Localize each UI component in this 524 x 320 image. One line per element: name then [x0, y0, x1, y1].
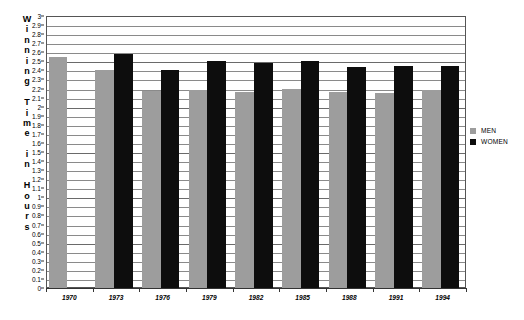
y-axis-tick-label: 2.1: [32, 94, 41, 101]
y-axis-tick-label: 2.9: [32, 22, 41, 29]
y-axis-tick-mark: [41, 106, 44, 107]
x-axis-tick-label-1973: 1973: [109, 294, 124, 301]
x-axis-tick-label-1991: 1991: [389, 294, 404, 301]
y-axis-tick-mark: [41, 260, 44, 261]
x-axis-tick-mark: [326, 288, 327, 292]
y-axis-tick-label: 0.8: [32, 212, 41, 219]
y-axis-tick-mark: [41, 79, 44, 80]
bar-men-1982: [235, 92, 254, 288]
y-axis-tick-mark: [41, 233, 44, 234]
y-axis-tick-mark: [41, 34, 44, 35]
y-axis-tick-mark: [41, 206, 44, 207]
y-axis-tick-mark: [41, 115, 44, 116]
y-axis-tick-mark: [41, 25, 44, 26]
y-axis-tick-label: 2.2: [32, 85, 41, 92]
y-axis-tick-label: 2.3: [32, 76, 41, 83]
x-axis-tick-mark: [139, 288, 140, 292]
bar-women-1976: [161, 70, 180, 288]
y-axis-tick-label: 1.3: [32, 167, 41, 174]
bar-women-1973: [114, 54, 133, 288]
y-axis-tick-label: 1.7: [32, 130, 41, 137]
y-axis-tick-label: 1.1: [32, 185, 41, 192]
y-axis-tick-labels: 32.92.82.72.62.52.42.32.22.121.91.81.71.…: [22, 16, 44, 288]
y-axis-tick-mark: [41, 43, 44, 44]
y-axis-tick-label: 1.9: [32, 112, 41, 119]
legend-swatch-men-icon: [470, 128, 476, 134]
x-axis-tick-label-1988: 1988: [342, 294, 357, 301]
y-axis-tick-label: 2.5: [32, 58, 41, 65]
bar-men-1979: [189, 90, 208, 288]
y-axis-tick-mark: [41, 215, 44, 216]
bar-men-1976: [142, 91, 161, 288]
y-axis-tick-label: 2.6: [32, 49, 41, 56]
y-axis-tick-mark: [41, 179, 44, 180]
y-axis-tick-mark: [41, 97, 44, 98]
bar-women-1988: [347, 67, 366, 288]
y-axis-tick-label: 1.2: [32, 176, 41, 183]
y-axis-tick-mark: [41, 152, 44, 153]
y-axis-tick-mark: [41, 88, 44, 89]
y-axis-tick-label: 2.8: [32, 31, 41, 38]
bar-men-1970: [49, 57, 68, 288]
x-axis-tick-label-1970: 1970: [62, 294, 77, 301]
x-axis-tick-label-1979: 1979: [202, 294, 217, 301]
bar-series-container: [46, 16, 466, 288]
bar-women-1994: [441, 66, 460, 288]
x-axis-tick-mark: [233, 288, 234, 292]
x-axis-tick-mark: [466, 288, 467, 292]
y-axis-tick-label: 0.1: [32, 275, 41, 282]
y-axis-tick-label: 1.5: [32, 149, 41, 156]
y-axis-tick-mark: [41, 288, 44, 289]
y-axis-tick-label: 0.9: [32, 203, 41, 210]
bar-women-1991: [394, 66, 413, 288]
legend-swatch-women-icon: [470, 139, 476, 145]
y-axis-tick-label: 0.4: [32, 248, 41, 255]
y-axis-tick-mark: [41, 133, 44, 134]
legend-label: MEN: [481, 127, 496, 134]
bar-men-1985: [282, 89, 301, 288]
bar-men-1991: [375, 93, 394, 288]
x-axis-tick-mark: [93, 288, 94, 292]
bar-women-1979: [207, 61, 226, 288]
y-axis-tick-label: 0.7: [32, 221, 41, 228]
y-axis-tick-mark: [41, 52, 44, 53]
y-axis-tick-label: 0.3: [32, 257, 41, 264]
legend-item-men[interactable]: MEN: [470, 126, 508, 135]
y-axis-tick-label: 0.5: [32, 239, 41, 246]
x-axis-tick-label-1976: 1976: [155, 294, 170, 301]
bar-men-1994: [422, 90, 441, 288]
y-axis-tick-mark: [41, 188, 44, 189]
x-axis-tick-mark: [46, 288, 47, 292]
x-axis-tick-label-1982: 1982: [249, 294, 264, 301]
y-axis-tick-mark: [41, 197, 44, 198]
x-axis-tick-mark: [186, 288, 187, 292]
bar-men-1988: [329, 92, 348, 288]
y-axis-tick-mark: [41, 161, 44, 162]
x-axis-tick-mark: [373, 288, 374, 292]
y-axis-tick-label: 1.8: [32, 121, 41, 128]
y-axis-tick-mark: [41, 278, 44, 279]
y-axis-tick-mark: [41, 124, 44, 125]
y-axis-tick-mark: [41, 70, 44, 71]
y-axis-tick-mark: [41, 142, 44, 143]
legend-label: WOMEN: [481, 138, 508, 145]
x-axis-tick-labels: 197019731976197919821985198819911994: [46, 288, 466, 314]
y-axis-tick-mark: [41, 16, 44, 17]
legend-item-women[interactable]: WOMEN: [470, 137, 508, 146]
y-axis-tick-mark: [41, 251, 44, 252]
y-axis-tick-label: 2.7: [32, 40, 41, 47]
bar-men-1973: [95, 70, 114, 288]
x-axis-tick-label-1985: 1985: [295, 294, 310, 301]
y-axis-tick-mark: [41, 242, 44, 243]
x-axis-tick-label-1994: 1994: [435, 294, 450, 301]
chart-legend: MENWOMEN: [470, 126, 508, 148]
y-axis-tick-label: 1.6: [32, 139, 41, 146]
y-axis-tick-label: 1.4: [32, 158, 41, 165]
bar-women-1982: [254, 63, 273, 288]
y-axis-tick-label: 0.2: [32, 266, 41, 273]
y-axis-tick-mark: [41, 224, 44, 225]
chart-canvas: WinningTimeinHours 32.92.82.72.62.52.42.…: [0, 0, 524, 320]
y-axis-tick-mark: [41, 170, 44, 171]
x-axis-tick-mark: [419, 288, 420, 292]
y-axis-tick-label: 2.4: [32, 67, 41, 74]
